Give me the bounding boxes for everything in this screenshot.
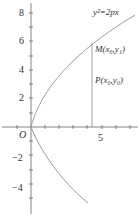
y-tick-label-neg2: −2 (12, 152, 23, 163)
origin-label: O (19, 129, 26, 140)
point-p-label: P(x₀,y₀) (94, 75, 123, 85)
point-m-label: M(x₀,y₁) (94, 44, 125, 54)
y-tick-label-6: 6 (19, 35, 24, 46)
x-tick-label-5: 5 (98, 132, 103, 143)
parabola-diagram: 8 6 4 2 −2 −4 5 O y²=2px M(x₀,y₁) P(x₀,y… (0, 0, 140, 221)
y-tick-label-4: 4 (19, 64, 24, 75)
y-tick-label-8: 8 (19, 7, 24, 18)
equation-label: y²=2px (92, 7, 119, 17)
y-tick-label-neg4: −4 (12, 182, 23, 193)
y-tick-label-2: 2 (19, 92, 24, 103)
